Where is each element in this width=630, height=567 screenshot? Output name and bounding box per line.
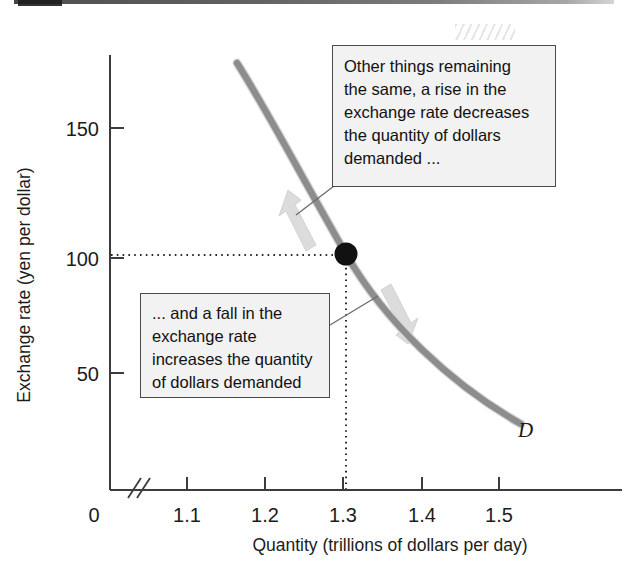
equilibrium-point-marker — [335, 243, 358, 266]
demand-curve-label: D — [517, 418, 533, 442]
x-axis-tick-label-0: 0 — [88, 504, 99, 526]
demand-for-dollars-figure: D 150 100 50 0 1.1 1.2 1.3 1.4 1.5 Excha… — [0, 0, 630, 567]
callout-top-line-4: the quantity of dollars — [344, 124, 545, 147]
callout-bottom-line-3: increases the quantity — [152, 348, 321, 371]
y-axis-tick-label-150: 150 — [66, 118, 99, 140]
callout-bottom-line-1: ... and a fall in the — [152, 302, 321, 325]
x-axis-tick-label-1-5: 1.5 — [485, 504, 513, 526]
callout-top-line-2: the same, a rise in the — [344, 78, 545, 101]
x-axis-tick-label-1-2: 1.2 — [251, 504, 279, 526]
x-axis-tick-label-1-3: 1.3 — [329, 504, 357, 526]
callout-top-line-1: Other things remaining — [344, 55, 545, 78]
x-axis-tick-label-1-4: 1.4 — [408, 504, 436, 526]
y-axis-tick-label-100: 100 — [66, 248, 99, 270]
callout-fall-in-exchange-rate: ... and a fall in the exchange rate incr… — [140, 293, 330, 398]
callout-bottom-line-4: of dollars demanded — [152, 371, 321, 394]
callout-bottom-line-2: exchange rate — [152, 325, 321, 348]
leader-line-bottom-callout — [330, 296, 378, 325]
axis-break-marks — [128, 478, 150, 498]
x-axis-tick-label-1-1: 1.1 — [173, 504, 201, 526]
y-axis-title: Exchange rate (yen per dollar) — [14, 167, 34, 402]
y-axis-tick-label-50: 50 — [77, 363, 99, 385]
callout-rise-in-exchange-rate: Other things remaining the same, a rise … — [332, 45, 556, 187]
callout-top-line-3: exchange rate decreases — [344, 101, 545, 124]
callout-top-line-5: demanded ... — [344, 147, 545, 170]
x-axis-title: Quantity (trillions of dollars per day) — [252, 535, 527, 555]
